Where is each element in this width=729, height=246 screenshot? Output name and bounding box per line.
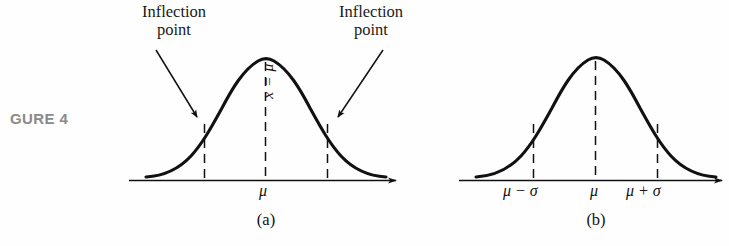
panel-b-tick-label-mu-minus-sigma: μ − σ — [503, 182, 538, 200]
inflection-point-label-left: Inflection point — [114, 3, 234, 40]
panel-b-tick-label-mu-plus-sigma: μ + σ — [626, 182, 661, 200]
panel-a-right-annotation-arrow — [338, 50, 383, 117]
inflection-point-label-left-line2: point — [114, 21, 234, 39]
inflection-point-label-right-line2: point — [311, 21, 431, 39]
inflection-point-label-right-line1: Inflection — [339, 2, 403, 21]
inflection-point-label-right: Inflection point — [311, 3, 431, 40]
figure-container: GURE 4 Inflection point Inflection point… — [0, 0, 729, 246]
panel-b-caption: (b) — [573, 210, 619, 230]
figure-number-label: GURE 4 — [10, 110, 68, 127]
panel-a-x-equals-mu-label: x = μ — [259, 46, 277, 116]
inflection-point-label-left-line1: Inflection — [142, 2, 206, 21]
panel-b-graphics — [459, 58, 722, 181]
panel-a-caption: (a) — [243, 210, 289, 230]
panel-b-tick-label-mu: μ — [590, 182, 598, 200]
panel-a-left-annotation-arrow — [156, 50, 197, 117]
panel-a-tick-label-mu: μ — [259, 182, 267, 200]
